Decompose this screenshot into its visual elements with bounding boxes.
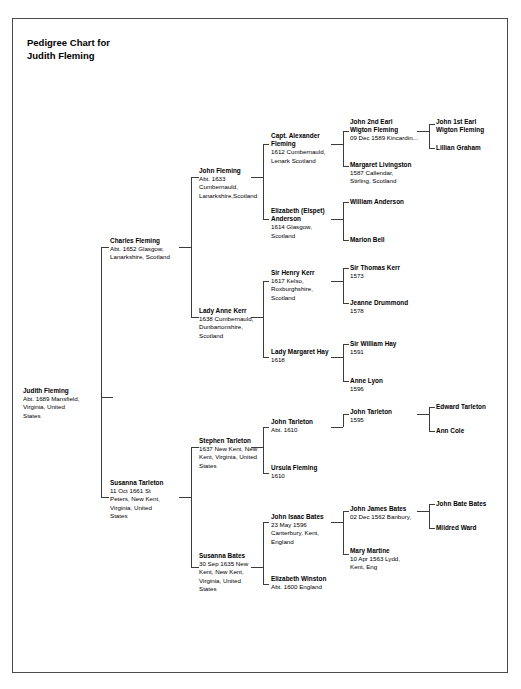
person-node-ann-cole[interactable]: Ann Cole xyxy=(436,427,508,435)
person-node-marion-bell[interactable]: Marion Bell xyxy=(350,236,430,244)
person-node-elizabeth-anderson[interactable]: Elizabeth (Elspet) Anderson 1614 Glasgow… xyxy=(271,207,343,240)
person-node-john-fleming[interactable]: John Fleming Abt. 1633 Cumbernauld, Lana… xyxy=(199,167,275,200)
person-node-john-isaac-bates[interactable]: John Isaac Bates 23 May 1596 Canterbury,… xyxy=(271,513,343,546)
connector xyxy=(343,268,344,303)
connector xyxy=(191,447,192,567)
person-name: William Anderson xyxy=(350,198,430,206)
connector xyxy=(343,511,344,554)
connector xyxy=(101,247,102,397)
connector xyxy=(101,397,102,497)
page-title-line-2: Judith Fleming xyxy=(27,50,95,61)
connector xyxy=(429,148,435,149)
person-node-mary-martine[interactable]: Mary Martine 10 Apr 1563 Lydd, Kent, Eng xyxy=(350,547,430,572)
person-node-william-anderson[interactable]: William Anderson xyxy=(350,198,430,206)
person-name: John 2nd Earl Wigton Fleming xyxy=(350,118,428,134)
person-name: Elizabeth Winston xyxy=(271,575,343,583)
person-node-john-tarleton-g4[interactable]: John Tarleton Abt. 1610 xyxy=(271,418,343,434)
person-name: John Bate Bates xyxy=(436,500,508,508)
person-node-susanna-tarleton[interactable]: Susanna Tarleton 11 Oct 1661 St Peters, … xyxy=(110,479,188,520)
connector xyxy=(343,303,349,304)
connector xyxy=(343,268,349,269)
connector xyxy=(343,131,344,166)
person-details: 23 May 1596 Canterbury, Kent, England xyxy=(271,521,343,546)
person-node-lady-margaret-hay[interactable]: Lady Margaret Hay 1618 xyxy=(271,348,345,364)
person-node-edward-tarleton[interactable]: Edward Tarleton xyxy=(436,403,508,411)
person-details: 1618 xyxy=(271,356,345,364)
person-details: 1591 xyxy=(350,348,430,356)
person-name: Sir William Hay xyxy=(350,340,430,348)
person-name: Charles Fleming xyxy=(110,237,188,245)
connector xyxy=(343,381,349,382)
person-node-mildred-ward[interactable]: Mildred Ward xyxy=(436,524,508,532)
person-node-john-2nd-earl-wigton-fleming[interactable]: John 2nd Earl Wigton Fleming 09 Dec 1589… xyxy=(350,118,428,143)
person-node-sir-thomas-kerr[interactable]: Sir Thomas Kerr 1573 xyxy=(350,264,430,280)
connector xyxy=(343,202,349,203)
connector xyxy=(343,554,349,555)
person-details: 1610 xyxy=(271,472,343,480)
person-node-john-james-bates[interactable]: John James Bates 02 Dec 1562 Banbury, xyxy=(350,505,432,521)
person-name: John Tarleton xyxy=(271,418,343,426)
page-title: Pedigree Chart forJudith Fleming xyxy=(27,36,110,62)
person-node-stephen-tarleton[interactable]: Stephen Tarleton 1637 New Kent, New Kent… xyxy=(199,437,279,470)
pedigree-chart-page: Pedigree Chart forJudith Fleming xyxy=(0,0,521,689)
person-name: Sir Thomas Kerr xyxy=(350,264,430,272)
person-details: Abt. 1633 Cumbernauld, Lanarkshire,Scotl… xyxy=(199,175,275,200)
person-details: Abt. 1689 Mansfield, Virginia, United St… xyxy=(23,395,99,420)
person-details: 30 Sep 1635 New Kent, New Kent, Virginia… xyxy=(199,560,277,593)
person-name: Mary Martine xyxy=(350,547,430,555)
person-node-john-bate-bates[interactable]: John Bate Bates xyxy=(436,500,508,508)
person-node-elizabeth-winston[interactable]: Elizabeth Winston Abt. 1600 England xyxy=(271,575,343,591)
person-details: 1578 xyxy=(350,307,432,315)
connector xyxy=(191,447,199,448)
person-details: Abt. 1600 England xyxy=(271,583,343,591)
person-name: Susanna Bates xyxy=(199,552,277,560)
person-details: 1617 Kelso, Roxburghshire, Scotland xyxy=(271,277,343,302)
person-node-john-1st-earl-wigton-fleming[interactable]: John 1st Earl Wigton Fleming xyxy=(436,118,508,134)
connector xyxy=(343,202,344,240)
person-details: 1595 xyxy=(350,416,430,424)
connector xyxy=(429,124,430,148)
person-details: 1612 Cumbernauld, Lenark Scotland xyxy=(271,148,343,164)
person-name: Marion Bell xyxy=(350,236,430,244)
person-node-capt-alexander-fleming[interactable]: Capt. Alexander Fleming 1612 Cumbernauld… xyxy=(271,132,343,165)
page-title-line-1: Pedigree Chart for xyxy=(27,37,110,48)
person-details: Abt. 1652 Glasgow, Lanarkshire, Scotland xyxy=(110,245,188,261)
person-node-sir-henry-kerr[interactable]: Sir Henry Kerr 1617 Kelso, Roxburghshire… xyxy=(271,269,343,302)
connector xyxy=(101,247,109,248)
person-name: Lillian Graham xyxy=(436,144,508,152)
connector xyxy=(343,131,349,132)
connector xyxy=(263,357,269,358)
person-name: Edward Tarleton xyxy=(436,403,508,411)
person-node-ursula-fleming[interactable]: Ursula Fleming 1610 xyxy=(271,464,343,480)
person-node-margaret-livingston[interactable]: Margaret Livingston 1587 Callendar, Stir… xyxy=(350,161,430,186)
connector xyxy=(343,414,349,415)
person-node-anne-lyon[interactable]: Anne Lyon 1596 xyxy=(350,377,430,393)
person-name: Jeanne Drummond xyxy=(350,299,432,307)
person-name: John Fleming xyxy=(199,167,275,175)
connector xyxy=(191,177,199,178)
person-node-lillian-graham[interactable]: Lillian Graham xyxy=(436,144,508,152)
person-name: Mildred Ward xyxy=(436,524,508,532)
person-node-charles-fleming[interactable]: Charles Fleming Abt. 1652 Glasgow, Lanar… xyxy=(110,237,188,262)
person-details: 1596 xyxy=(350,385,430,393)
connector xyxy=(101,497,109,498)
person-name: John James Bates xyxy=(350,505,432,513)
connector xyxy=(191,567,199,568)
person-name: Ursula Fleming xyxy=(271,464,343,472)
person-node-john-tarleton-g5[interactable]: John Tarleton 1595 xyxy=(350,408,430,424)
connector xyxy=(343,511,349,512)
person-details: 1614 Glasgow, Scotland xyxy=(271,223,343,239)
person-node-sir-william-hay[interactable]: Sir William Hay 1591 xyxy=(350,340,430,356)
connector xyxy=(263,427,269,428)
person-details: 10 Apr 1563 Lydd, Kent, Eng xyxy=(350,555,430,571)
person-details: 1638 Cumbernauld, Dunbartonshire, Scotla… xyxy=(199,315,275,340)
person-node-judith-fleming[interactable]: Judith Fleming Abt. 1689 Mansfield, Virg… xyxy=(23,387,99,420)
person-node-jeanne-drummond[interactable]: Jeanne Drummond 1578 xyxy=(350,299,432,315)
person-name: John Tarleton xyxy=(350,408,430,416)
connector xyxy=(429,124,435,125)
person-name: Susanna Tarleton xyxy=(110,479,188,487)
person-details: 02 Dec 1562 Banbury, xyxy=(350,513,432,521)
connector xyxy=(263,281,269,282)
person-node-susanna-bates[interactable]: Susanna Bates 30 Sep 1635 New Kent, New … xyxy=(199,552,277,593)
person-node-lady-anne-kerr[interactable]: Lady Anne Kerr 1638 Cumbernauld, Dunbart… xyxy=(199,307,275,340)
